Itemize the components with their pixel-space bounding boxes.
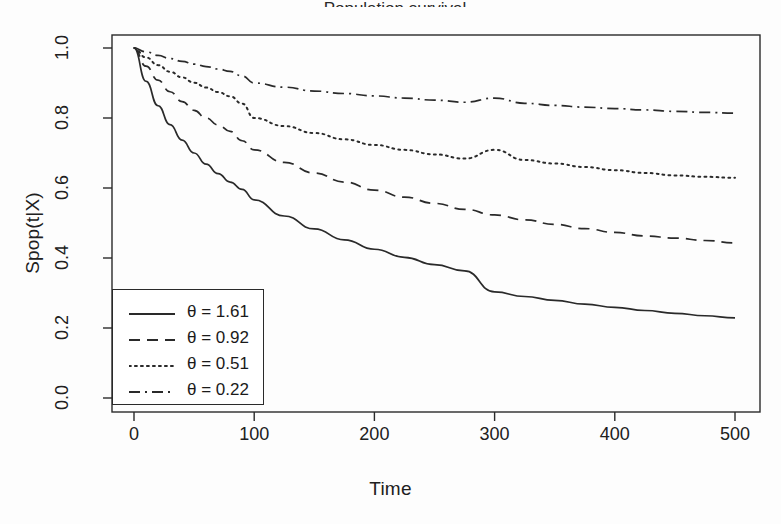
- legend-item: θ = 0.51: [113, 352, 265, 378]
- figure-canvas: Population survival 0100200300400500 0.0…: [0, 0, 781, 524]
- x-tick-label: 300: [465, 424, 525, 445]
- legend-line-sample: [129, 338, 175, 340]
- y-tick-label: 0.0: [52, 368, 73, 428]
- curve-theta-0.51: [134, 48, 735, 178]
- y-axis-title: Spop(t|X): [22, 138, 44, 328]
- y-tick-label: 0.8: [52, 88, 73, 148]
- y-tick-marks: [103, 48, 112, 398]
- curve-theta-0.22: [134, 48, 735, 113]
- legend-line-sample: [129, 312, 175, 314]
- x-tick-label: 500: [705, 424, 765, 445]
- legend-item: θ = 1.61: [113, 300, 265, 326]
- y-tick-label: 0.6: [52, 158, 73, 218]
- legend-label: θ = 0.51: [187, 354, 249, 374]
- legend: θ = 1.61θ = 0.92θ = 0.51θ = 0.22: [112, 289, 264, 405]
- x-axis-title: Time: [0, 478, 781, 500]
- legend-item: θ = 0.92: [113, 326, 265, 352]
- curve-theta-1.61: [134, 48, 735, 318]
- legend-item: θ = 0.22: [113, 378, 265, 404]
- plot-area: [0, 0, 781, 524]
- x-tick-label: 400: [585, 424, 645, 445]
- legend-label: θ = 0.92: [187, 328, 249, 348]
- legend-line-sample: [129, 364, 175, 366]
- x-tick-marks: [134, 412, 735, 421]
- curve-theta-0.92: [134, 48, 735, 243]
- y-tick-label: 0.2: [52, 298, 73, 358]
- x-tick-label: 100: [224, 424, 284, 445]
- x-tick-label: 0: [104, 424, 164, 445]
- y-tick-label: 1.0: [52, 18, 73, 78]
- data-curves: [134, 48, 735, 318]
- legend-label: θ = 1.61: [187, 302, 249, 322]
- x-tick-label: 200: [344, 424, 404, 445]
- y-tick-label: 0.4: [52, 228, 73, 288]
- legend-label: θ = 0.22: [187, 380, 249, 400]
- legend-line-sample: [129, 390, 175, 392]
